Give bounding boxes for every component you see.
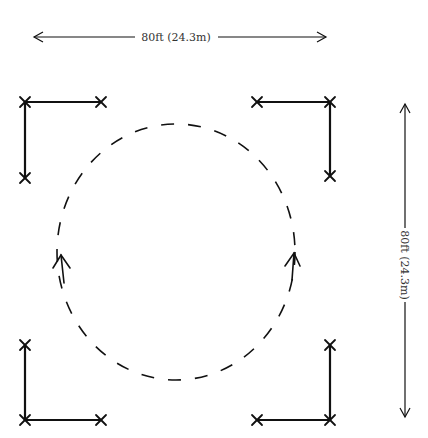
- x-mark-icon: [252, 97, 335, 181]
- diagram-svg: 80ft (24.3m) 80ft (24.3m): [0, 0, 428, 438]
- corner-marker-bottom-left: [20, 340, 106, 425]
- x-mark-icon: [20, 340, 106, 425]
- corner-marker-bottom-right: [252, 340, 335, 425]
- arrow-up-right-icon: [285, 253, 300, 280]
- arrow-up-left-icon: [53, 255, 70, 283]
- diagram-canvas: 80ft (24.3m) 80ft (24.3m): [0, 0, 428, 438]
- width-label: 80ft (24.3m): [141, 31, 211, 44]
- corner-marker-top-left: [20, 97, 106, 183]
- x-mark-icon: [20, 97, 106, 183]
- height-label: 80ft (24.3m): [398, 230, 411, 300]
- corner-marker-top-right: [252, 97, 335, 181]
- circle-direction-arrows: [53, 253, 300, 283]
- width-dimension: 80ft (24.3m): [34, 31, 326, 44]
- height-dimension: 80ft (24.3m): [398, 104, 411, 417]
- x-mark-icon: [252, 340, 335, 425]
- circular-path: [57, 124, 295, 380]
